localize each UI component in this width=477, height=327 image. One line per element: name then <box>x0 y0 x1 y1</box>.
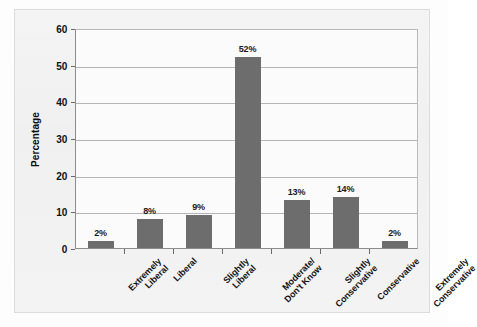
y-axis-title: Percentage <box>29 112 40 167</box>
bar[interactable] <box>284 200 310 248</box>
x-axis-label-line: Conservative <box>375 256 421 302</box>
bar-value-label: 52% <box>239 44 256 54</box>
chart-figure-frame: Percentage 0102030405060 2%8%9%52%13%14%… <box>14 9 430 313</box>
y-tick-label: 10 <box>56 207 67 218</box>
bar[interactable] <box>382 241 408 248</box>
bar[interactable] <box>186 215 212 248</box>
bar[interactable] <box>88 241 114 248</box>
y-tick-mark <box>71 249 75 250</box>
y-tick-label: 60 <box>56 24 67 35</box>
y-tick-label: 30 <box>56 134 67 145</box>
x-axis-label: SlightlyConservative <box>326 256 379 309</box>
bar-slot: 2% <box>370 30 419 248</box>
x-tick-mark <box>369 249 370 254</box>
bar-value-label: 2% <box>94 228 107 238</box>
x-axis-label: ExtremelyConservative <box>424 256 477 309</box>
x-tick-mark <box>320 249 321 254</box>
bar[interactable] <box>333 197 359 248</box>
bar-slot: 13% <box>272 30 321 248</box>
y-tick-label: 50 <box>56 60 67 71</box>
bar-value-label: 2% <box>388 228 401 238</box>
x-axis-label-line: Liberal <box>171 256 198 283</box>
bar[interactable] <box>137 219 163 248</box>
bar-value-label: 9% <box>192 202 205 212</box>
bar-value-label: 14% <box>337 184 354 194</box>
bar[interactable] <box>235 57 261 248</box>
bar-slot: 52% <box>223 30 272 248</box>
bar-slot: 9% <box>174 30 223 248</box>
bar-slot: 2% <box>76 30 125 248</box>
x-axis-label: Conservative <box>375 256 421 302</box>
x-axis-label: Moderate/Don't Know <box>275 256 324 305</box>
x-tick-mark <box>271 249 272 254</box>
x-tick-mark <box>222 249 223 254</box>
x-tick-mark <box>173 249 174 254</box>
y-tick-label: 20 <box>56 170 67 181</box>
y-tick-label: 0 <box>62 244 67 255</box>
x-axis-label: Liberal <box>171 256 198 283</box>
bar-slot: 14% <box>321 30 370 248</box>
bar-value-label: 13% <box>288 187 305 197</box>
plot-area: 2%8%9%52%13%14%2% <box>75 29 418 249</box>
bar-slot: 8% <box>125 30 174 248</box>
x-tick-mark <box>124 249 125 254</box>
bar-value-label: 8% <box>143 206 156 216</box>
x-axis-label: SlightlyLiberal <box>221 256 258 293</box>
x-axis-label: ExtremelyLiberal <box>126 256 170 300</box>
y-tick-label: 40 <box>56 97 67 108</box>
